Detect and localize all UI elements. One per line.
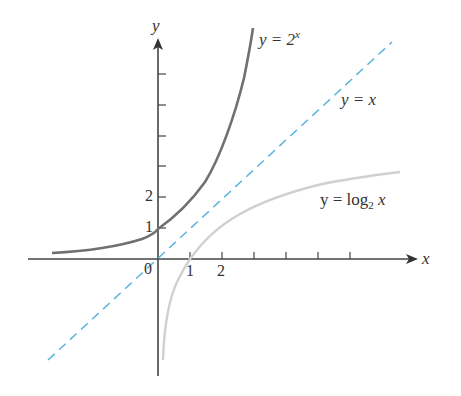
identity-label: y = x <box>341 90 376 110</box>
origin-label: 0 <box>144 260 152 278</box>
chart-plot <box>0 0 461 396</box>
y-tick-1: 1 <box>145 218 153 236</box>
y-ticks <box>158 74 166 228</box>
y-axis-label: y <box>152 16 160 36</box>
x-tick-2: 2 <box>217 262 225 280</box>
exponential-label: y = 2x <box>259 28 300 50</box>
x-tick-1: 1 <box>186 262 194 280</box>
x-ticks <box>190 252 350 259</box>
y-tick-2: 2 <box>145 187 153 205</box>
logarithm-label: y = log2 x <box>320 190 386 211</box>
x-axis-label: x <box>422 249 430 269</box>
